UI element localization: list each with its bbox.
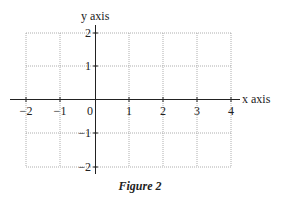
x-tick-label: 2: [160, 104, 166, 118]
figure-caption: Figure 2: [117, 179, 161, 193]
x-tick-label: −2: [20, 104, 33, 118]
y-tick-label: 2: [85, 26, 91, 40]
x-tick-label: −1: [54, 104, 67, 118]
x-tick-label: 1: [126, 104, 132, 118]
y-axis-label: y axis: [81, 9, 110, 23]
y-tick-label: −2: [78, 160, 91, 174]
x-tick-label: 0: [87, 104, 93, 118]
x-axis-label: x axis: [242, 92, 271, 106]
coordinate-plane: −2 −1 0 1 2 3 4 2 1 −1 −2 y axis x axis …: [0, 0, 281, 202]
y-tick-label: −1: [78, 126, 91, 140]
x-tick-label: 3: [194, 104, 200, 118]
y-tick-label: 1: [85, 59, 91, 73]
x-tick-label: 4: [228, 104, 234, 118]
